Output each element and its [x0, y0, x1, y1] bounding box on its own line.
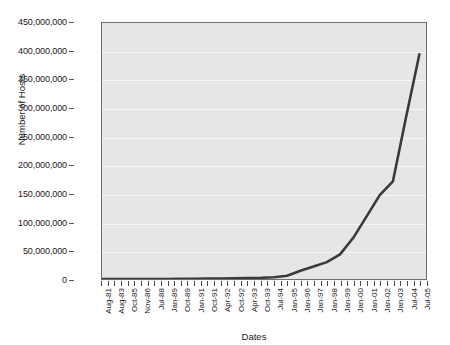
x-axis-tick-mark	[234, 281, 235, 286]
x-axis-tick-mark	[294, 281, 295, 286]
x-axis-tick-mark	[407, 281, 408, 286]
y-axis-tick-mark	[69, 223, 74, 224]
y-axis-tick-mark	[69, 51, 74, 52]
x-axis-tick-label: Jan-02	[384, 288, 392, 312]
x-axis-tick-marks	[101, 281, 427, 287]
x-axis-tick-mark	[387, 281, 388, 286]
x-axis-tick-mark	[281, 281, 282, 286]
x-axis-tick-label: Oct-91	[211, 288, 219, 312]
y-axis-tick-label: 300,000,000	[18, 104, 67, 113]
x-axis-tick-mark	[108, 281, 109, 286]
y-axis-tick-mark	[69, 108, 74, 109]
x-axis-tick-mark	[148, 281, 149, 286]
x-axis-tick-mark	[261, 281, 262, 286]
y-axis-tick-label: 100,000,000	[18, 218, 67, 227]
y-axis-tick-label: 350,000,000	[18, 75, 67, 84]
x-axis-tick-mark	[374, 281, 375, 286]
x-axis-tick-mark	[227, 281, 228, 286]
x-axis-tick-mark	[354, 281, 355, 286]
x-axis-tick-mark	[168, 281, 169, 286]
x-axis-tick-mark	[154, 281, 155, 286]
x-axis-tick-label: Jan-03	[397, 288, 405, 312]
x-axis-tick-mark	[121, 281, 122, 286]
y-axis-tick-mark	[69, 280, 74, 281]
x-axis-tick-mark	[427, 281, 428, 286]
x-axis-tick-label: Oct-89	[184, 288, 192, 312]
internet-hosts-growth-chart: Number of Hosts 050,000,000100,000,00015…	[0, 0, 450, 345]
x-axis-tick-mark	[274, 281, 275, 286]
y-axis-tick-label: 150,000,000	[18, 190, 67, 199]
x-axis-tick-mark	[201, 281, 202, 286]
x-axis-tick-label: Oct-93	[264, 288, 272, 312]
x-axis-tick-label: Jan-00	[357, 288, 365, 312]
y-axis-tick-labels: 050,000,000100,000,000150,000,000200,000…	[0, 0, 101, 302]
x-axis-tick-mark	[241, 281, 242, 286]
x-axis-tick-mark	[380, 281, 381, 286]
x-axis-tick-mark	[247, 281, 248, 286]
x-axis-tick-mark	[134, 281, 135, 286]
x-axis-tick-label: Jan-99	[344, 288, 352, 312]
x-axis-tick-mark	[181, 281, 182, 286]
y-axis-tick-mark	[69, 194, 74, 195]
x-axis-tick-labels: Aug-81Aug-83Oct-85Nov-86Jul-88Jan-89Oct-…	[0, 288, 450, 332]
x-axis-tick-label: Jan-01	[371, 288, 379, 312]
x-axis-tick-label: Jul-04	[411, 288, 419, 310]
y-axis-tick-label: 400,000,000	[18, 46, 67, 55]
y-axis-tick-mark	[69, 165, 74, 166]
x-axis-tick-mark	[128, 281, 129, 286]
x-axis-tick-mark	[267, 281, 268, 286]
x-axis-tick-mark	[254, 281, 255, 286]
x-axis-tick-label: Jan-95	[291, 288, 299, 312]
x-axis-tick-mark	[187, 281, 188, 286]
x-axis-tick-mark	[341, 281, 342, 286]
x-axis-tick-label: Aug-83	[118, 288, 126, 314]
x-axis-tick-label: Jan-89	[171, 288, 179, 312]
y-axis-tick-mark	[69, 251, 74, 252]
y-axis-tick-mark	[69, 79, 74, 80]
x-axis-tick-mark	[347, 281, 348, 286]
x-axis-tick-mark	[174, 281, 175, 286]
x-axis-tick-mark	[214, 281, 215, 286]
x-axis-tick-mark	[327, 281, 328, 286]
x-axis-tick-label: Nov-86	[144, 288, 152, 314]
x-axis-tick-mark	[207, 281, 208, 286]
x-axis-tick-label: Jan-98	[331, 288, 339, 312]
x-axis-tick-mark	[307, 281, 308, 286]
x-axis-tick-label: Jan-96	[304, 288, 312, 312]
x-axis-tick-mark	[194, 281, 195, 286]
hosts-line-series	[102, 23, 426, 279]
y-axis-tick-mark	[69, 137, 74, 138]
x-axis-tick-mark	[334, 281, 335, 286]
x-axis-tick-mark	[101, 281, 102, 286]
y-axis-tick-label: 200,000,000	[18, 161, 67, 170]
x-axis-tick-mark	[221, 281, 222, 286]
x-axis-tick-label: Apr-93	[251, 288, 259, 312]
y-axis-tick-label: 450,000,000	[18, 18, 67, 27]
x-axis-tick-label: Jan-97	[317, 288, 325, 312]
x-axis-tick-mark	[141, 281, 142, 286]
x-axis-tick-label: Jul-05	[424, 288, 432, 310]
plot-area	[101, 22, 427, 280]
x-axis-tick-mark	[400, 281, 401, 286]
x-axis-tick-mark	[360, 281, 361, 286]
x-axis-tick-mark	[367, 281, 368, 286]
y-axis-tick-label: 250,000,000	[18, 132, 67, 141]
x-axis-title: Dates	[0, 331, 450, 342]
x-axis-tick-label: Jan-91	[198, 288, 206, 312]
y-axis-tick-mark	[69, 22, 74, 23]
y-axis-tick-label: 0	[62, 276, 67, 285]
x-axis-tick-label: Jul-88	[158, 288, 166, 310]
x-axis-tick-mark	[161, 281, 162, 286]
x-axis-tick-mark	[394, 281, 395, 286]
x-axis-tick-label: Apr-92	[224, 288, 232, 312]
x-axis-tick-mark	[301, 281, 302, 286]
x-axis-tick-label: Oct-92	[238, 288, 246, 312]
x-axis-tick-mark	[414, 281, 415, 286]
x-axis-tick-mark	[314, 281, 315, 286]
y-axis-tick-label: 50,000,000	[23, 247, 67, 256]
x-axis-tick-mark	[321, 281, 322, 286]
x-axis-tick-mark	[420, 281, 421, 286]
x-axis-tick-label: Jul-94	[277, 288, 285, 310]
x-axis-tick-label: Aug-81	[105, 288, 113, 314]
x-axis-tick-mark	[287, 281, 288, 286]
